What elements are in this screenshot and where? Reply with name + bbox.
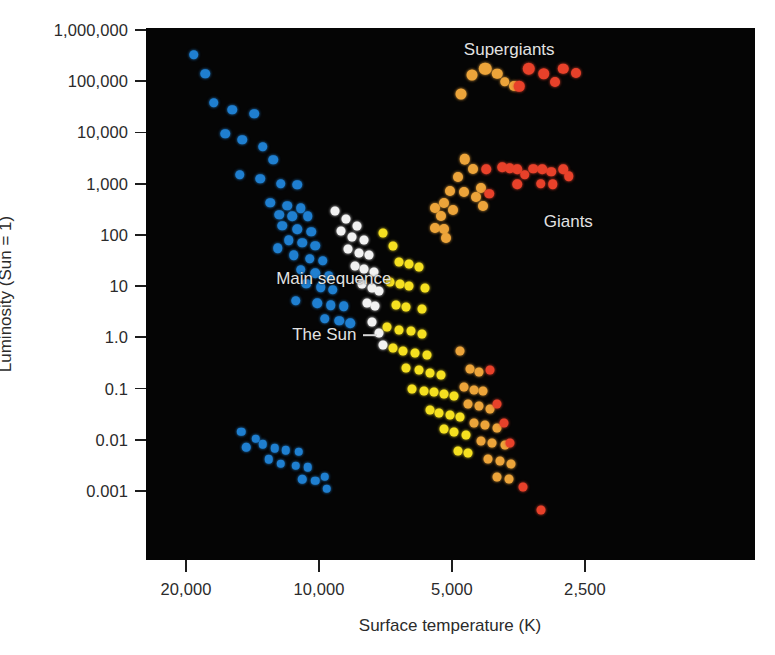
y-tick xyxy=(135,388,146,390)
y-tick-label: 0.001 xyxy=(0,482,128,501)
y-tick-label: 0.01 xyxy=(0,430,128,449)
plot-area: SupergiantsGiantsMain sequenceThe Sun xyxy=(146,28,755,560)
y-tick-label: 10 xyxy=(0,277,128,296)
annotation-giants: Giants xyxy=(544,212,593,232)
x-tick-label: 10,000 xyxy=(293,580,344,599)
y-tick-label: 1,000,000 xyxy=(0,21,128,40)
annotations-layer: SupergiantsGiantsMain sequenceThe Sun xyxy=(146,28,755,560)
x-tick-label: 2,500 xyxy=(564,580,606,599)
y-tick xyxy=(135,183,146,185)
y-tick xyxy=(135,490,146,492)
y-tick-label: 1.0 xyxy=(0,328,128,347)
y-tick-label: 100 xyxy=(0,225,128,244)
x-tick xyxy=(584,560,586,572)
sun-leader-line xyxy=(363,334,377,336)
annotation-the-sun: The Sun xyxy=(292,325,356,345)
y-tick-label: 100,000 xyxy=(0,72,128,91)
x-tick xyxy=(451,560,453,572)
x-tick-label: 20,000 xyxy=(160,580,211,599)
y-tick xyxy=(135,336,146,338)
x-tick-label: 5,000 xyxy=(431,580,473,599)
y-tick xyxy=(135,285,146,287)
y-tick xyxy=(135,29,146,31)
y-axis-title: Luminosity (Sun = 1) xyxy=(0,216,16,372)
hr-diagram-figure: SupergiantsGiantsMain sequenceThe Sun 1,… xyxy=(0,0,775,655)
y-tick xyxy=(135,132,146,134)
y-tick-label: 1,000 xyxy=(0,174,128,193)
y-tick-label: 10,000 xyxy=(0,123,128,142)
x-axis-title: Surface temperature (K) xyxy=(359,616,541,636)
annotation-main-sequence: Main sequence xyxy=(276,269,391,289)
x-tick xyxy=(318,560,320,572)
annotation-supergiants: Supergiants xyxy=(464,40,555,60)
x-tick xyxy=(185,560,187,572)
y-tick xyxy=(135,439,146,441)
y-tick xyxy=(135,80,146,82)
y-tick-label: 0.1 xyxy=(0,379,128,398)
y-tick xyxy=(135,234,146,236)
